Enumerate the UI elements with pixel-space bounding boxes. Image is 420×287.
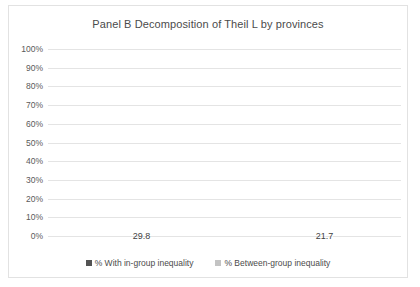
legend-swatch-icon-between-group <box>215 260 221 266</box>
ytick-label-50: 50% <box>26 138 43 148</box>
ytick-label-30: 30% <box>26 175 43 185</box>
legend-item-within-group[interactable]: % With in-group inequality <box>86 258 194 268</box>
gridline-30: 30% <box>48 180 401 181</box>
gridline-90: 90% <box>48 68 401 69</box>
ytick-label-100: 100% <box>21 44 43 54</box>
ytick-label-10: 10% <box>26 212 43 222</box>
ytick-label-60: 60% <box>26 119 43 129</box>
ytick-label-40: 40% <box>26 156 43 166</box>
chart-frame: Panel B Decomposition of Theil L by prov… <box>8 5 408 278</box>
plot-area: 100% 90% 80% 70% 60% 50% 40% 30% 20% 10% <box>48 49 401 236</box>
gridline-20: 20% <box>48 199 401 200</box>
gridline-70: 70% <box>48 105 401 106</box>
bar-label-between-group-2016: 21.7 <box>287 231 362 241</box>
legend-label-within-group: % With in-group inequality <box>95 258 194 268</box>
legend-item-between-group[interactable]: % Between-group inequality <box>215 258 330 268</box>
legend-swatch-icon-within-group <box>86 260 92 266</box>
ytick-label-90: 90% <box>26 63 43 73</box>
ytick-label-0: 0% <box>31 231 43 241</box>
ytick-label-80: 80% <box>26 81 43 91</box>
chart-title: Panel B Decomposition of Theil L by prov… <box>9 18 407 30</box>
gridline-40: 40% <box>48 161 401 162</box>
gridline-60: 60% <box>48 124 401 125</box>
ytick-label-20: 20% <box>26 194 43 204</box>
gridline-100: 100% <box>48 49 401 50</box>
gridline-10: 10% <box>48 217 401 218</box>
chart-legend: % With in-group inequality % Between-gro… <box>9 258 407 268</box>
bar-label-between-group-2006: 29.8 <box>104 231 179 241</box>
gridline-80: 80% <box>48 86 401 87</box>
legend-label-between-group: % Between-group inequality <box>224 258 330 268</box>
ytick-label-70: 70% <box>26 100 43 110</box>
gridline-50: 50% <box>48 143 401 144</box>
